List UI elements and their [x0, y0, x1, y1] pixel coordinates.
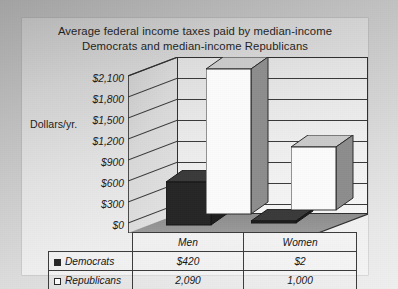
bar-republicans-men: [206, 57, 276, 227]
chart-title-line-1: Average federal income taxes paid by med…: [22, 24, 368, 39]
table-row: Republicans 2,090 1,000: [49, 271, 357, 289]
value-democrats-women: $2: [244, 252, 357, 271]
legend-item-democrats: Democrats: [49, 252, 133, 271]
value-republicans-women: 1,000: [244, 271, 357, 289]
legend-label-republicans: Republicans: [65, 275, 121, 286]
column-header-men: Men: [132, 233, 243, 252]
y-tick-label: $2,100: [93, 73, 125, 84]
legend-label-democrats: Democrats: [65, 256, 114, 267]
y-tick-label: $1,500: [93, 115, 125, 126]
y-tick-label: $1,200: [93, 136, 125, 147]
y-tick-label: $300: [101, 199, 124, 210]
legend-swatch-democrats-icon: [54, 259, 61, 266]
value-democrats-men: $420: [132, 252, 243, 271]
y-tick-label: $0: [113, 220, 124, 231]
y-tick-label: $1,800: [93, 94, 125, 105]
y-axis-tick-labels: $2,100 $1,800 $1,500 $1,200 $900 $600 $3…: [50, 57, 124, 233]
table-corner-cell: [49, 233, 133, 252]
legend-item-republicans: Republicans: [49, 271, 133, 289]
bar-republicans-women: [291, 135, 361, 230]
plot-area: [128, 57, 368, 233]
chart-title: Average federal income taxes paid by med…: [22, 24, 368, 53]
chart-title-line-2: Democrats and median-income Republicans: [22, 39, 368, 54]
data-table: Men Women Democrats $420 $2 Republicans …: [48, 232, 357, 289]
chart-screenshot: Average federal income taxes paid by med…: [0, 0, 398, 289]
column-header-women: Women: [244, 233, 357, 252]
value-republicans-men: 2,090: [132, 271, 243, 289]
table-row: Democrats $420 $2: [49, 252, 357, 271]
table-header-row: Men Women: [49, 233, 357, 252]
y-tick-label: $900: [101, 157, 124, 168]
y-tick-label: $600: [101, 178, 124, 189]
legend-swatch-republicans-icon: [54, 278, 61, 285]
chart-panel: Average federal income taxes paid by med…: [22, 18, 368, 275]
